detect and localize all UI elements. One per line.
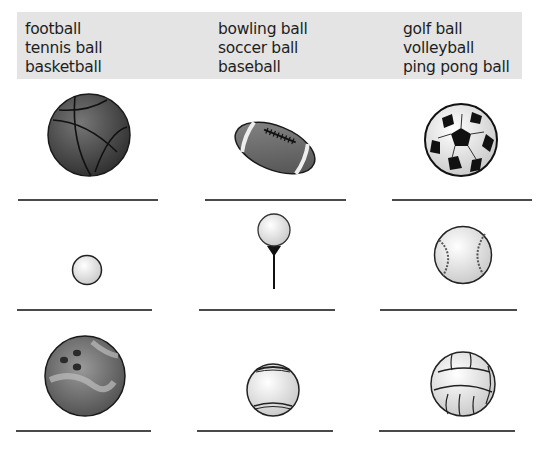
word-volleyball: volleyball (403, 39, 509, 58)
answer-line-r1c2[interactable] (205, 199, 346, 201)
volleyball-picture (430, 350, 496, 418)
tennis-ball-icon (246, 362, 300, 418)
word-ping-pong-ball: ping pong ball (403, 58, 509, 77)
football-picture (232, 118, 318, 178)
word-tennis-ball: tennis ball (25, 39, 102, 58)
bowling-ball-picture (44, 334, 126, 418)
answer-line-r2c3[interactable] (380, 309, 517, 311)
basketball-picture (47, 92, 131, 178)
tennis-ball-picture (246, 362, 300, 418)
word-basketball: basketball (25, 58, 102, 77)
answer-line-r2c1[interactable] (17, 309, 152, 311)
baseball-picture (433, 224, 493, 286)
football-icon (232, 118, 318, 178)
answer-line-r3c2[interactable] (197, 430, 333, 432)
ping-pong-ball-picture (71, 254, 103, 286)
golf-ball-icon (256, 213, 292, 291)
word-baseball: baseball (218, 58, 308, 77)
word-bank-column-1: football tennis ball basketball (25, 20, 102, 77)
bowling-ball-icon (44, 334, 126, 418)
word-soccer-ball: soccer ball (218, 39, 308, 58)
answer-line-r3c3[interactable] (379, 430, 515, 432)
word-football: football (25, 20, 102, 39)
word-golf-ball: golf ball (403, 20, 509, 39)
answer-line-r2c2[interactable] (199, 309, 335, 311)
basketball-icon (47, 92, 131, 178)
answer-line-r1c3[interactable] (392, 199, 532, 201)
soccer-ball-picture (424, 102, 498, 178)
answer-line-r1c1[interactable] (18, 199, 158, 201)
word-bank-column-2: bowling ball soccer ball baseball (218, 20, 308, 77)
answer-line-r3c1[interactable] (16, 430, 151, 432)
baseball-icon (433, 224, 493, 286)
golf-ball-on-tee-picture (256, 213, 292, 291)
ping-pong-ball-icon (71, 254, 103, 286)
volleyball-icon (430, 350, 496, 418)
word-bowling-ball: bowling ball (218, 20, 308, 39)
word-bank: football tennis ball basketball bowling … (17, 12, 522, 79)
soccer-ball-icon (424, 102, 498, 178)
word-bank-column-3: golf ball volleyball ping pong ball (403, 20, 509, 77)
